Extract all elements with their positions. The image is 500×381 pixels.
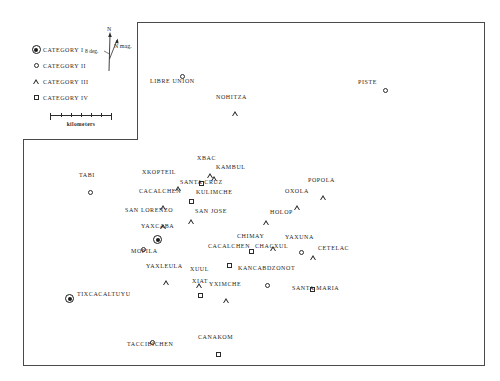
site-label: YAXLEULA	[146, 263, 183, 269]
site-marker[interactable]	[232, 102, 238, 120]
site-label: CETELAC	[318, 245, 349, 251]
site-label: SANTA MARIA	[292, 285, 339, 291]
site-label: SAN LORENZO	[125, 207, 173, 213]
north-arrow-icon: N N mag. 8 deg.	[85, 26, 135, 78]
cat1-symbol-icon	[153, 235, 162, 244]
legend-panel: CATEGORY I CATEGORY II CATEGORY III CATE…	[23, 22, 138, 140]
cat3-symbol-icon	[263, 220, 269, 225]
site-marker[interactable]	[294, 196, 300, 214]
site-label: XUUL	[190, 266, 209, 272]
scale-bar: kilometers	[50, 113, 112, 127]
legend-item-category-3: CATEGORY III	[29, 75, 89, 88]
site-marker[interactable]	[320, 186, 326, 204]
site-marker[interactable]	[263, 211, 269, 229]
site-label: KULIMCHE	[196, 189, 232, 195]
site-label: YXIMCHE	[209, 281, 241, 287]
cat2-symbol-icon	[265, 283, 270, 288]
site-label: KANCABDZONOT	[238, 265, 295, 271]
site-label: YAXUNA	[285, 234, 314, 240]
cat2-symbol-icon	[88, 190, 93, 195]
site-marker[interactable]	[188, 210, 194, 228]
cat3-symbol-icon	[320, 195, 326, 200]
category-1-symbol-icon	[29, 45, 43, 54]
site-marker[interactable]	[163, 271, 169, 289]
site-label: XKOPTEIL	[142, 169, 176, 175]
scale-tick	[101, 113, 102, 117]
scale-bar-label: kilometers	[50, 121, 112, 127]
archaeological-site-map: LIBRE UNIONNOHITZAPISTETABIXBACKAMBULXKO…	[0, 0, 500, 381]
site-marker[interactable]	[227, 254, 232, 272]
site-label: CACALCHEN	[208, 243, 250, 249]
site-label: SANTA CRUZ	[180, 179, 223, 185]
category-4-symbol-icon	[29, 95, 43, 100]
legend-item-category-2: CATEGORY II	[29, 59, 89, 72]
site-label: KAMBUL	[216, 164, 246, 170]
cat3-symbol-icon	[294, 205, 300, 210]
site-label: CHIMAY	[237, 233, 264, 239]
site-label: CANAKOM	[198, 334, 233, 340]
site-label: LIBRE UNION	[150, 78, 195, 84]
cat4-symbol-icon	[227, 263, 232, 268]
site-label: XIAT	[192, 278, 208, 284]
cat4-symbol-icon	[198, 293, 203, 298]
legend-entries: CATEGORY I CATEGORY II CATEGORY III CATE…	[29, 43, 89, 107]
cat2-symbol-icon	[299, 250, 304, 255]
site-marker[interactable]	[216, 343, 221, 361]
legend-item-category-1: CATEGORY I	[29, 43, 89, 56]
cat3-symbol-icon	[163, 280, 169, 285]
site-marker[interactable]	[299, 241, 304, 259]
legend-label-category-4: CATEGORY IV	[43, 95, 88, 101]
site-label: CACALCHEN	[139, 188, 181, 194]
site-marker[interactable]	[223, 289, 229, 307]
north-arrow-declination-label: 8 deg.	[85, 48, 98, 54]
site-marker[interactable]	[153, 230, 162, 248]
scale-tick	[71, 113, 72, 117]
category-3-symbol-icon	[29, 79, 43, 84]
north-arrow-true-label: N	[107, 26, 111, 32]
site-label: SAN JOSE	[195, 208, 227, 214]
north-arrow-magnetic-label: N mag.	[114, 43, 132, 49]
legend-label-category-2: CATEGORY II	[43, 63, 86, 69]
site-marker[interactable]	[65, 289, 74, 307]
site-label: CHACXUL	[255, 243, 288, 249]
site-marker[interactable]	[249, 240, 254, 258]
site-marker[interactable]	[265, 274, 270, 292]
cat3-symbol-icon	[232, 111, 238, 116]
scale-tick	[91, 113, 92, 117]
site-marker[interactable]	[189, 190, 194, 208]
cat2-symbol-icon	[383, 88, 388, 93]
site-label: TIXCACALTUYU	[77, 291, 131, 297]
site-marker[interactable]	[88, 181, 93, 199]
site-label: XBAC	[197, 155, 216, 161]
cat3-symbol-icon	[310, 255, 316, 260]
site-label: TABI	[79, 172, 95, 178]
site-label: OXOLA	[285, 188, 309, 194]
cat1-symbol-icon	[65, 294, 74, 303]
site-label: NOHITZA	[216, 94, 247, 100]
site-label: HOLOP	[270, 209, 293, 215]
scale-tick	[81, 113, 82, 117]
site-marker[interactable]	[383, 79, 388, 97]
cat4-symbol-icon	[189, 199, 194, 204]
cat3-symbol-icon	[223, 298, 229, 303]
site-label: MOPILA	[131, 248, 158, 254]
legend-item-category-4: CATEGORY IV	[29, 91, 89, 104]
site-label: PISTE	[358, 79, 377, 85]
site-marker[interactable]	[198, 284, 203, 302]
category-2-symbol-icon	[29, 63, 43, 68]
scale-bar-graphic	[50, 113, 112, 120]
cat4-symbol-icon	[249, 249, 254, 254]
site-label: POPOLA	[308, 177, 335, 183]
cat3-symbol-icon	[188, 219, 194, 224]
legend-label-category-1: CATEGORY I	[43, 47, 83, 53]
site-marker[interactable]	[310, 246, 316, 264]
cat4-symbol-icon	[216, 352, 221, 357]
site-label: YAXCABA	[141, 223, 174, 229]
scale-tick	[61, 113, 62, 117]
legend-label-category-3: CATEGORY III	[43, 79, 89, 85]
site-label: TACCIBICHEN	[127, 341, 173, 347]
